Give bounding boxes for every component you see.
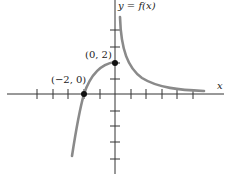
function-label: y = f(x) xyxy=(118,1,156,11)
point-x-intercept xyxy=(81,91,87,97)
point-label-y-intercept: (0, 2) xyxy=(85,50,112,60)
point-label-x-intercept: (−2, 0) xyxy=(51,75,86,85)
function-graph xyxy=(0,0,227,178)
x-axis-label: x xyxy=(217,81,223,91)
point-y-intercept xyxy=(112,60,118,66)
curve-right-branch xyxy=(120,17,204,91)
